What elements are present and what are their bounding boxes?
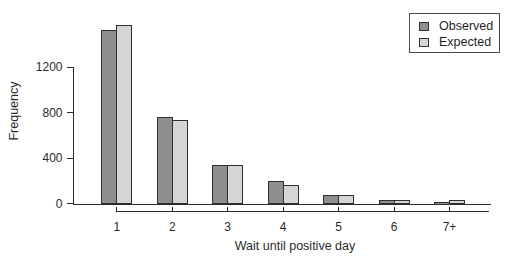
x-axis-tick-label: 3 — [213, 221, 243, 234]
bar-observed-6 — [379, 200, 395, 205]
y-axis-tick — [67, 67, 73, 68]
x-axis-tick — [338, 207, 339, 212]
bar-expected-2 — [172, 120, 188, 204]
legend-item-observed: Observed — [419, 18, 499, 34]
legend: ObservedExpected — [409, 13, 500, 53]
x-axis-tick-label: 6 — [379, 221, 409, 234]
y-axis-tick-label: 400 — [29, 152, 63, 164]
y-axis-tick — [67, 203, 73, 204]
bar-observed-5 — [323, 195, 339, 204]
y-axis-tick-label: 800 — [29, 107, 63, 119]
bar-observed-4 — [268, 181, 284, 204]
legend-label: Expected — [439, 36, 491, 49]
bar-expected-4 — [283, 185, 299, 204]
bar-observed-2 — [157, 117, 173, 204]
bar-chart: 040080012001234567+ Frequency Wait until… — [0, 0, 513, 267]
x-axis-tick — [116, 207, 117, 212]
x-axis-tick — [227, 207, 228, 212]
x-axis-tick — [394, 207, 395, 212]
bar-expected-5 — [338, 195, 354, 205]
y-axis-tick — [67, 112, 73, 113]
bar-observed-1 — [101, 30, 117, 205]
legend-item-expected: Expected — [419, 34, 499, 50]
bar-observed-7+ — [434, 202, 450, 205]
x-axis-tick-label: 5 — [324, 221, 354, 234]
bar-observed-3 — [212, 165, 228, 204]
x-axis-tick-label: 7+ — [435, 221, 465, 234]
y-axis-tick-label: 0 — [29, 198, 63, 210]
bar-expected-7+ — [449, 200, 465, 205]
x-axis-tick-label: 1 — [102, 221, 132, 234]
bar-expected-3 — [227, 165, 243, 205]
y-axis-line — [73, 67, 74, 204]
x-axis-title: Wait until positive day — [180, 239, 410, 253]
legend-swatch-observed — [419, 22, 429, 31]
x-axis-tick-label: 2 — [157, 221, 187, 234]
bar-expected-6 — [394, 200, 410, 205]
x-axis-tick — [172, 207, 173, 212]
bar-expected-1 — [116, 25, 132, 204]
y-axis-title: Frequency — [7, 56, 21, 166]
legend-label: Observed — [439, 20, 493, 33]
x-axis-tick — [449, 207, 450, 212]
x-axis-tick-label: 4 — [268, 221, 298, 234]
y-axis-tick — [67, 158, 73, 159]
legend-swatch-expected — [419, 38, 429, 47]
x-axis-tick — [283, 207, 284, 212]
y-axis-tick-label: 1200 — [29, 61, 63, 73]
